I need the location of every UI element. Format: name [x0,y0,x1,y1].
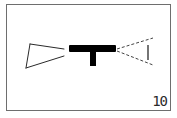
t-shape-icon [69,45,116,66]
frame-number-label: 10 [152,94,167,108]
left-trapezoid-icon [26,44,64,68]
diagram-canvas [0,0,177,118]
